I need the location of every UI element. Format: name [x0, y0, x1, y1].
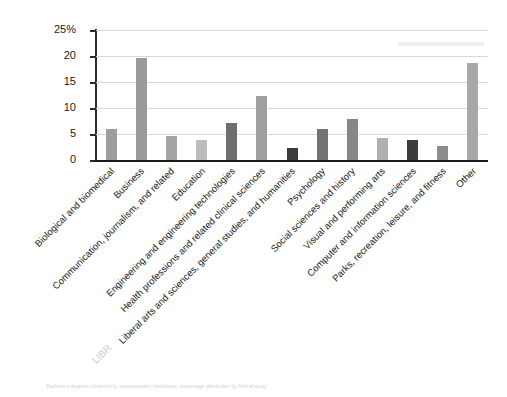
scan-artifact-smudge — [398, 42, 484, 46]
chart-figure: 0510152025% Biological and biomedicalBus… — [0, 0, 507, 397]
x-tick-label: Other — [454, 166, 478, 190]
x-axis-category-labels: Biological and biomedicalBusinessCommuni… — [0, 0, 507, 397]
figure-caption: Bachelor's degrees conferred by postseco… — [46, 383, 486, 389]
x-tick-label: Parks, recreation, leisure, and fitness — [330, 166, 448, 284]
x-tick-label: Health professions and related clinical … — [119, 166, 267, 314]
